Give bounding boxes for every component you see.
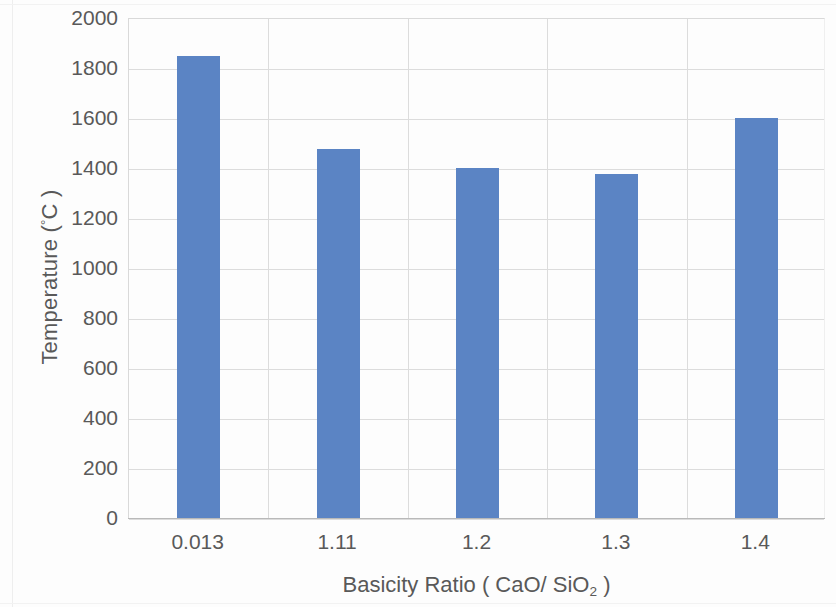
scan-artifact-line [0,4,836,5]
y-axis-tick-label: 400 [22,406,118,430]
y-axis-tick-label: 600 [22,356,118,380]
gridline-horizontal [129,69,824,70]
y-axis-tick-label: 1800 [22,56,118,80]
y-axis-tick-label: 1600 [22,106,118,130]
x-axis-tick-labels: 0.0131.111.21.31.4 [128,530,825,564]
y-axis-tick-label: 800 [22,306,118,330]
bar [456,168,499,518]
x-axis-title-suffix: ) [597,572,610,597]
y-axis-tick-label: 0 [22,506,118,530]
y-axis-tick-label: 1000 [22,256,118,280]
y-axis-tick-labels: 0200400600800100012001400160018002000 [22,0,118,607]
x-axis-line [128,518,825,519]
x-axis-tick-label: 0.013 [171,530,224,554]
gridline-vertical [408,19,409,518]
plot-area [128,18,825,518]
scan-artifact-line [12,0,13,607]
bar [595,174,638,518]
y-axis-tick-label: 1200 [22,206,118,230]
gridline-vertical [268,19,269,518]
x-axis-tick-label: 1.11 [317,530,356,554]
bar [177,56,220,519]
bar [735,118,778,518]
x-axis-tick-label: 1.3 [601,530,630,554]
x-axis-title-prefix: Basicity Ratio ( CaO/ SiO [343,572,590,597]
bar-chart-figure: Temperature (°C ) 0200400600800100012001… [0,0,836,607]
gridline-vertical [687,19,688,518]
x-axis-title: Basicity Ratio ( CaO/ SiO2 ) [128,572,825,599]
bar [317,149,360,518]
x-axis-tick-label: 1.2 [462,530,491,554]
scan-artifact-line [0,603,836,604]
y-axis-tick-label: 1400 [22,156,118,180]
y-axis-tick-label: 200 [22,456,118,480]
gridline-horizontal [129,119,824,120]
gridline-vertical [547,19,548,518]
x-axis-title-subscript: 2 [589,584,597,599]
gridline-horizontal [129,519,824,520]
y-axis-tick-label: 2000 [22,6,118,30]
x-axis-tick-label: 1.4 [741,530,770,554]
